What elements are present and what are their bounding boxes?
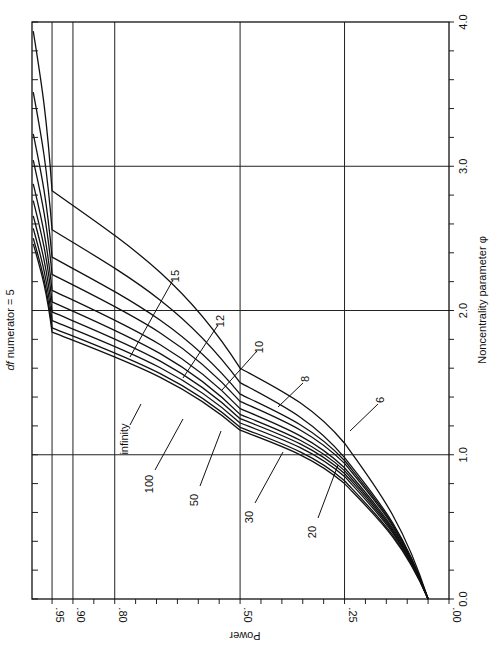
- curve-df-8: [33, 92, 428, 599]
- chart-title: df numerator = 5: [4, 289, 16, 370]
- curve-label-50: 50: [188, 494, 200, 506]
- power-chart: 68101215203050100infinity .00.25.50.80.9…: [0, 0, 496, 650]
- y-axis-title: Power: [229, 630, 261, 642]
- svg-text:0.0: 0.0: [457, 591, 469, 606]
- axis-labels: .00.25.50.80.90.950.01.02.03.04.0: [54, 14, 469, 622]
- svg-text:2.0: 2.0: [457, 303, 469, 318]
- curve-df-10: [33, 134, 428, 599]
- svg-text:.00: .00: [451, 607, 463, 622]
- curve-df-infinity: [33, 244, 428, 599]
- curve-label-15: 15: [169, 270, 181, 282]
- svg-text:4.0: 4.0: [457, 14, 469, 29]
- svg-text:.90: .90: [75, 607, 87, 622]
- curve-df-100: [33, 238, 428, 599]
- curve-df-30: [33, 216, 428, 599]
- curve-label-12: 12: [214, 315, 226, 327]
- svg-text:.80: .80: [117, 607, 129, 622]
- curve-label-10: 10: [253, 341, 265, 353]
- svg-text:1.0: 1.0: [457, 447, 469, 462]
- curve-label-20: 20: [306, 526, 318, 538]
- curve-df-50: [33, 228, 428, 599]
- curve-label-6: 6: [374, 397, 386, 403]
- svg-text:3.0: 3.0: [457, 159, 469, 174]
- curve-label-100: 100: [143, 475, 155, 493]
- power-curves: [33, 31, 428, 599]
- curve-df-6: [33, 31, 428, 599]
- svg-text:.95: .95: [54, 607, 66, 622]
- curve-label-30: 30: [243, 511, 255, 523]
- x-axis-title: Noncentrality parameter φ: [476, 236, 488, 364]
- curve-label-8: 8: [299, 376, 311, 382]
- svg-text:.50: .50: [242, 607, 254, 622]
- svg-text:.25: .25: [347, 607, 359, 622]
- curve-label-infinity: infinity: [118, 423, 130, 455]
